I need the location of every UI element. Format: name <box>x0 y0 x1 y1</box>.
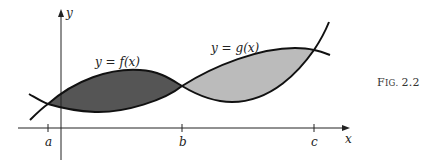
tick-label-c: c <box>311 135 318 149</box>
figure-caption: FIG.2.2 <box>377 76 420 89</box>
curve-f-label: y = f(x) <box>94 55 140 69</box>
area-between-curves-figure: y x a b c y = f(x) y = g(x) FIG.2.2 <box>0 0 436 165</box>
caption-initial: F <box>377 76 385 89</box>
x-axis-label: x <box>345 132 352 146</box>
shaded-region-a-b <box>48 70 182 112</box>
curve-g-label: y = g(x) <box>210 41 260 55</box>
caption-smallcaps: IG. <box>385 78 398 88</box>
y-axis-arrow-icon <box>58 9 64 17</box>
caption-number: 2.2 <box>401 76 419 89</box>
tick-label-a: a <box>45 135 52 149</box>
y-axis-label: y <box>65 6 73 20</box>
x-axis-arrow-icon <box>342 125 350 131</box>
tick-label-b: b <box>179 135 187 149</box>
